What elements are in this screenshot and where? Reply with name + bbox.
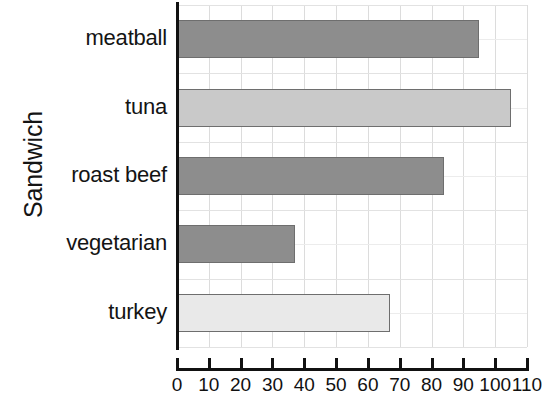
x-axis-tick-mark xyxy=(303,358,306,371)
x-axis-tick-label: 90 xyxy=(453,375,474,395)
x-axis-tick-label: 80 xyxy=(421,375,442,395)
x-axis-tick-label: 20 xyxy=(230,375,251,395)
x-axis-tick-label: 10 xyxy=(198,375,219,395)
y-axis-line xyxy=(176,2,179,350)
bar-roast-beef xyxy=(177,157,444,195)
x-axis-tick-mark xyxy=(367,358,370,371)
x-axis-tick-mark xyxy=(208,358,211,371)
gridline-horizontal xyxy=(177,142,527,143)
gridline-horizontal xyxy=(177,279,527,280)
x-axis-tick-label: 50 xyxy=(326,375,347,395)
x-axis-tick-label: 100 xyxy=(479,375,511,395)
bar-meatball xyxy=(177,20,479,58)
y-axis-tick-labels: meatballtunaroast beefvegetarianturkey xyxy=(0,0,173,347)
bar-turkey xyxy=(177,294,390,332)
gridline-vertical xyxy=(527,5,528,347)
x-axis-tick-mark xyxy=(399,358,402,371)
gridline-horizontal xyxy=(177,73,527,74)
bar-tuna xyxy=(177,89,511,127)
bar-chart: Sandwich meatballtunaroast beefvegetaria… xyxy=(0,0,544,412)
x-axis-tick-mark xyxy=(176,358,179,371)
x-axis-tick-label: 0 xyxy=(172,375,183,395)
x-axis-tick-label: 30 xyxy=(262,375,283,395)
bar-vegetarian xyxy=(177,225,295,263)
x-axis-tick-mark xyxy=(462,358,465,371)
gridline-horizontal xyxy=(177,5,527,6)
x-axis-tick-mark xyxy=(335,358,338,371)
x-axis-tick-label: 40 xyxy=(294,375,315,395)
x-axis-tick-mark xyxy=(271,358,274,371)
x-axis-tick-label: 110 xyxy=(512,375,542,395)
y-axis-tick-label: tuna xyxy=(125,96,167,118)
x-axis-tick-label: 70 xyxy=(389,375,410,395)
y-axis-tick-label: meatball xyxy=(85,27,167,49)
x-axis-line xyxy=(176,368,528,371)
gridline-horizontal xyxy=(177,347,527,348)
x-axis-tick-mark xyxy=(526,358,529,371)
x-axis-tick-mark xyxy=(240,358,243,371)
gridline-horizontal xyxy=(177,210,527,211)
x-axis-tick-mark xyxy=(494,358,497,371)
y-axis-tick-label: roast beef xyxy=(71,164,167,186)
x-axis-tick-label: 60 xyxy=(357,375,378,395)
y-axis-tick-label: turkey xyxy=(108,301,167,323)
plot-area xyxy=(177,5,527,347)
x-axis-tick-mark xyxy=(431,358,434,371)
y-axis-tick-label: vegetarian xyxy=(66,232,167,254)
